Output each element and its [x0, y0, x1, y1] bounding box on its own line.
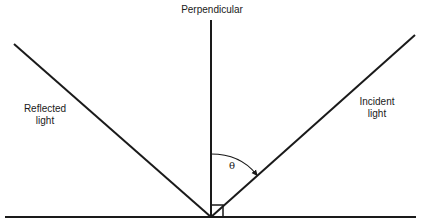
- reflected-arrow-icon: [132, 147, 142, 156]
- reflected-ray: [14, 44, 211, 217]
- incident-arrow-icon: [240, 182, 250, 191]
- incident-ray: [211, 35, 415, 217]
- incident-light-label: Incident light: [342, 96, 412, 120]
- reflected-light-label: Reflected light: [10, 103, 80, 127]
- perpendicular-label: Perpendicular: [162, 4, 262, 16]
- angle-theta-label: θ: [226, 160, 238, 172]
